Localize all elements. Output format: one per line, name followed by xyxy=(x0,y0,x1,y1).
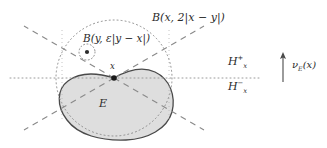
normal-vector-argument: (x) xyxy=(303,59,316,70)
normal-vector-label: νE(x) xyxy=(292,60,316,72)
point-x-label: x xyxy=(110,62,115,71)
halfspace-upper-letter: H xyxy=(228,55,238,68)
point-y-dot xyxy=(85,50,89,54)
halfspace-lower-sup: − xyxy=(238,79,244,87)
halfspace-lower-sub: x xyxy=(243,87,247,95)
halfspace-upper-sub: x xyxy=(243,62,247,70)
halfspace-upper-sup: + xyxy=(238,54,244,62)
point-x-dot xyxy=(111,75,117,81)
outer-ball-label: B(x, 2|x − y|) xyxy=(152,12,225,23)
halfspace-lower-label: H−x xyxy=(228,80,247,95)
set-E-label: E xyxy=(99,98,107,109)
halfspace-lower-letter: H xyxy=(228,80,238,93)
halfspace-upper-label: H+x xyxy=(228,55,247,70)
inner-ball-label: B(y, ε|y − x|) xyxy=(83,33,150,44)
